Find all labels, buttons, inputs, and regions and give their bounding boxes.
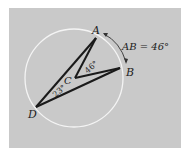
point-label-D: D xyxy=(27,108,37,121)
inscribed-angle-diagram: A B C D 46° 23° AB = 46° xyxy=(0,0,188,155)
point-label-A: A xyxy=(91,24,100,37)
line-C-B xyxy=(75,68,120,78)
arrowhead-icon xyxy=(103,33,108,37)
circle xyxy=(25,29,123,127)
point-label-C: C xyxy=(64,75,72,86)
arc-measure-label: AB = 46° xyxy=(121,41,169,52)
arrowhead-icon xyxy=(124,58,128,64)
point-label-B: B xyxy=(125,66,134,79)
